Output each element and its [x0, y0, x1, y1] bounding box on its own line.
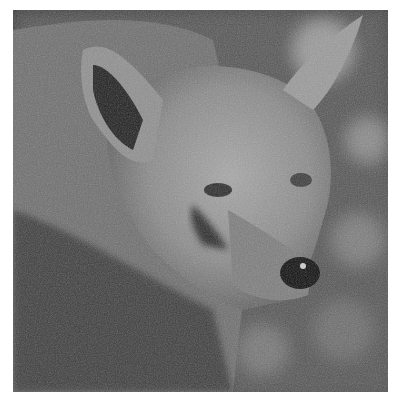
coyote-illustration	[13, 10, 388, 392]
film-grain	[13, 10, 388, 392]
coyote-photo	[13, 10, 388, 392]
